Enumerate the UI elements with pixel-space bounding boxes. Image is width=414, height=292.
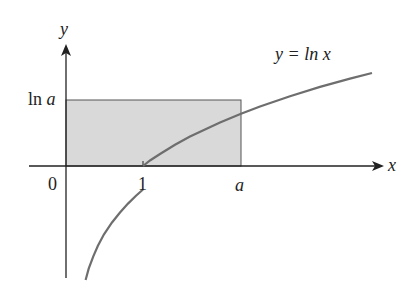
tick-label-one: 1 (138, 175, 147, 193)
a-text: a (47, 89, 56, 109)
ln-text: ln (28, 89, 47, 109)
ln-area-diagram: y x 0 1 a ln a y = ln x (0, 0, 414, 292)
shaded-rectangle (66, 100, 241, 166)
y-tick-label-ln-a: ln a (28, 90, 56, 108)
diagram-canvas (0, 0, 414, 292)
x-axis-label: x (388, 156, 396, 174)
y-axis-label: y (60, 20, 68, 38)
curve-label: y = ln x (275, 45, 331, 63)
origin-label: 0 (48, 175, 57, 193)
tick-label-a: a (235, 176, 244, 194)
